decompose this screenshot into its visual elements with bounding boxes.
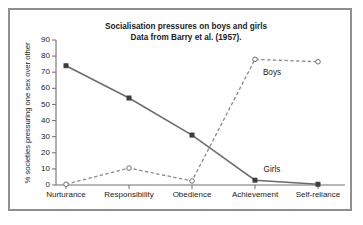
x-tick-label-nurturance: Nurturance: [46, 190, 86, 199]
series-label-girls: Girls: [264, 165, 281, 174]
y-axis-ticks: 0 10 20 30 40 50 60 70 80 90: [41, 35, 56, 189]
x-tick-label-responsibility: Responsibility: [104, 190, 153, 199]
x-tick-label-self-reliance: Self-reliance: [296, 190, 341, 199]
data-point-boys-1: [127, 166, 132, 171]
y-tick-label: 60: [41, 83, 50, 92]
series-girls-markers: [64, 64, 320, 187]
y-tick-label: 30: [41, 132, 50, 141]
data-point-girls-3: [253, 178, 257, 182]
line-chart: Socialisation pressures on boys and girl…: [0, 0, 363, 225]
y-tick-label: 90: [41, 35, 50, 44]
data-point-boys-3: [253, 57, 258, 62]
chart-title-line2: Data from Barry et al. (1957).: [130, 33, 241, 42]
series-boys: [64, 57, 321, 186]
series-label-boys: Boys: [263, 68, 281, 77]
y-tick-label: 20: [41, 148, 50, 157]
x-tick-label-obedience: Obedience: [173, 190, 212, 199]
series-girls: [64, 64, 320, 187]
y-tick-label: 0: [46, 180, 51, 189]
x-tick-label-achievement: Achievement: [232, 190, 279, 199]
chart-title-line1: Socialisation pressures on boys and girl…: [105, 22, 267, 31]
y-tick-label: 10: [41, 164, 50, 173]
y-tick-label: 50: [41, 100, 50, 109]
y-axis-title: % societies pressuring one sex over othe…: [23, 42, 32, 183]
data-point-girls-0: [64, 64, 68, 68]
y-tick-label: 80: [41, 51, 50, 60]
data-point-boys-4: [316, 59, 321, 64]
data-point-girls-4: [316, 182, 320, 186]
data-point-boys-0: [64, 182, 69, 187]
y-tick-label: 40: [41, 116, 50, 125]
y-tick-label: 70: [41, 67, 50, 76]
figure-root: Socialisation pressures on boys and girl…: [0, 0, 363, 225]
data-point-boys-2: [190, 179, 195, 184]
data-point-girls-2: [190, 133, 194, 137]
x-axis-ticks: Nurturance Responsibility Obedience Achi…: [46, 185, 341, 199]
series-boys-markers: [64, 57, 321, 186]
data-point-girls-1: [127, 96, 131, 100]
